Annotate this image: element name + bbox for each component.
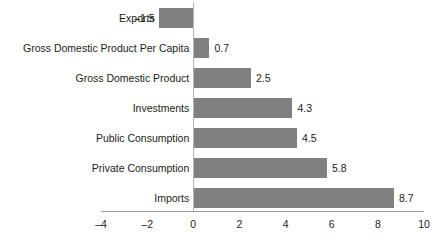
x-tick-label: 2 bbox=[237, 217, 243, 231]
x-tick-label: 4 bbox=[283, 217, 289, 231]
bar-row: Public Consumption4.5 bbox=[0, 128, 445, 158]
bar bbox=[193, 128, 297, 148]
bar bbox=[193, 158, 327, 178]
bar-row: Private Consumption5.8 bbox=[0, 158, 445, 188]
bar bbox=[193, 38, 209, 58]
x-tick-label: 8 bbox=[375, 217, 381, 231]
x-tick-label: 0 bbox=[190, 217, 196, 231]
plot-area: Exports–1.5Gross Domestic Product Per Ca… bbox=[0, 0, 445, 239]
x-tick-label: 10 bbox=[418, 217, 430, 231]
x-tick-label: –4 bbox=[95, 217, 107, 231]
zero-axis-line bbox=[193, 2, 194, 211]
category-label: Public Consumption bbox=[0, 128, 189, 148]
value-label: 4.5 bbox=[302, 128, 317, 148]
category-label: Gross Domestic Product bbox=[0, 68, 189, 88]
value-label: 0.7 bbox=[214, 38, 229, 58]
value-label: 4.3 bbox=[297, 98, 312, 118]
category-label: Gross Domestic Product Per Capita bbox=[0, 38, 189, 58]
bar-row: Exports–1.5 bbox=[0, 8, 445, 38]
bar bbox=[193, 98, 292, 118]
value-label: 8.7 bbox=[399, 188, 414, 208]
bar-row: Imports8.7 bbox=[0, 188, 445, 218]
value-label: –1.5 bbox=[125, 8, 155, 28]
category-label: Investments bbox=[0, 98, 189, 118]
category-label: Private Consumption bbox=[0, 158, 189, 178]
x-tick-label: –2 bbox=[141, 217, 153, 231]
value-label: 2.5 bbox=[256, 68, 271, 88]
bar-row: Gross Domestic Product Per Capita0.7 bbox=[0, 38, 445, 68]
x-tick-label: 6 bbox=[329, 217, 335, 231]
bar bbox=[193, 188, 394, 208]
bar-row: Gross Domestic Product2.5 bbox=[0, 68, 445, 98]
bar-row: Investments4.3 bbox=[0, 98, 445, 128]
category-label: Imports bbox=[0, 188, 189, 208]
bar-chart: Exports–1.5Gross Domestic Product Per Ca… bbox=[0, 0, 445, 239]
x-axis-line bbox=[101, 211, 424, 212]
bar bbox=[193, 68, 251, 88]
bar bbox=[159, 8, 194, 28]
value-label: 5.8 bbox=[332, 158, 347, 178]
